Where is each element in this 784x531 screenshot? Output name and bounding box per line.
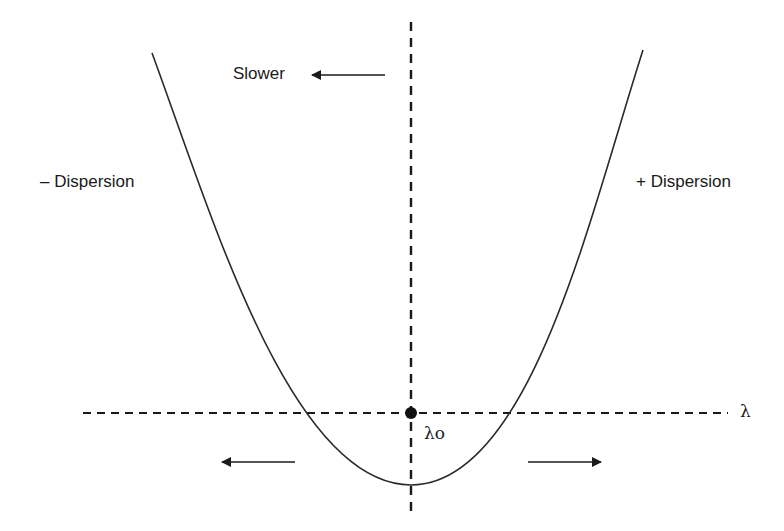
- zero-dispersion-point: [405, 407, 417, 419]
- dispersion-curve: [152, 50, 643, 485]
- lambda-zero-label: λo: [424, 423, 445, 443]
- negative-dispersion-label: – Dispersion: [40, 172, 135, 192]
- lambda-axis-label: λ: [740, 401, 751, 421]
- slower-label: Slower: [233, 64, 285, 84]
- dispersion-diagram: [0, 0, 784, 531]
- positive-dispersion-label: + Dispersion: [636, 172, 731, 192]
